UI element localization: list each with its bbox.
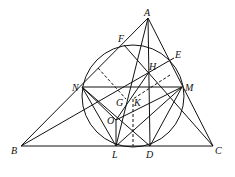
point-label-f: F bbox=[117, 33, 125, 44]
side-ac bbox=[148, 18, 213, 146]
point-label-h: H bbox=[148, 61, 157, 72]
point-label-c: C bbox=[215, 145, 222, 156]
point-label-m: M bbox=[184, 82, 194, 93]
dashed-perp-left bbox=[98, 68, 126, 99]
point-label-g: G bbox=[116, 97, 123, 108]
altitude-ad bbox=[148, 18, 150, 146]
line-md bbox=[150, 87, 182, 146]
point-label-k: K bbox=[133, 97, 142, 108]
point-label-l: L bbox=[111, 149, 118, 160]
point-label-e: E bbox=[174, 49, 181, 60]
point-label-b: B bbox=[11, 145, 17, 156]
point-label-o: O bbox=[107, 115, 114, 126]
point-label-n: N bbox=[71, 82, 80, 93]
side-ab bbox=[21, 18, 148, 146]
geometry-diagram: AFEHNMGKOBLDC bbox=[0, 0, 235, 177]
point-label-d: D bbox=[145, 149, 154, 160]
point-label-a: A bbox=[143, 7, 151, 18]
